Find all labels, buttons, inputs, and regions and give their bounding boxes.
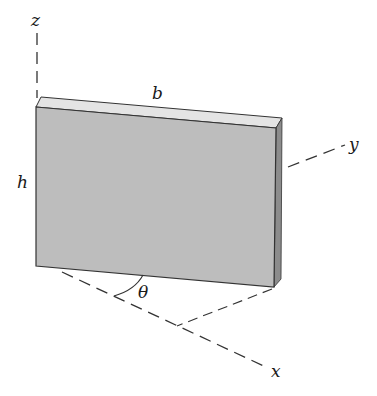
width-label: b [152,83,163,103]
y-axis-label: y [348,134,359,154]
projection-line [177,289,272,326]
angle-label: θ [138,282,148,302]
plate-front-face [36,107,276,287]
z-axis-label: z [30,10,41,30]
x-axis-label: x [271,361,281,381]
x-axis [62,272,268,368]
plate-diagram: z y x b h θ [0,0,377,396]
height-label: h [17,172,28,192]
y-axis [288,145,345,167]
